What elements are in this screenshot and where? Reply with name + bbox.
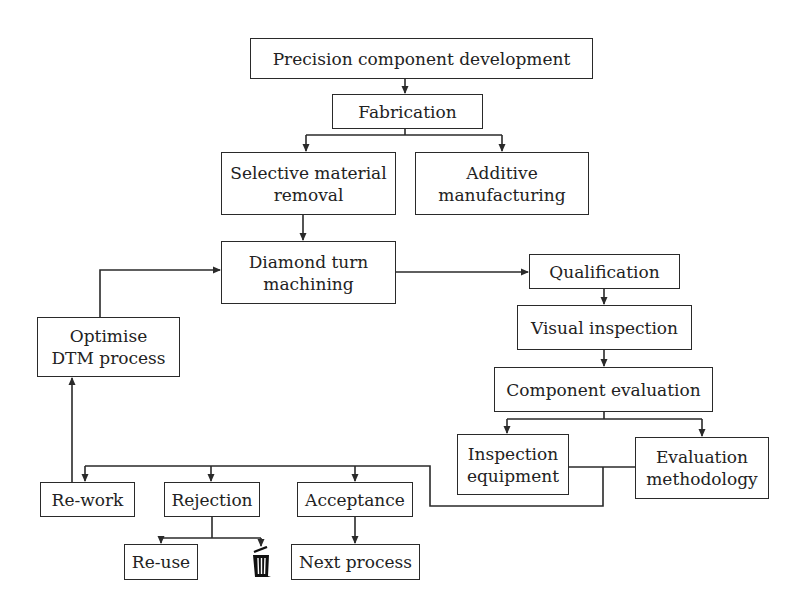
node-rejection: Rejection bbox=[164, 482, 260, 517]
node-fabrication: Fabrication bbox=[332, 94, 483, 129]
flowchart: Precision component development Fabricat… bbox=[0, 0, 799, 607]
node-qualification: Qualification bbox=[529, 254, 680, 289]
node-component-evaluation: Component evaluation bbox=[494, 367, 713, 412]
node-visual-inspection: Visual inspection bbox=[517, 305, 692, 350]
node-evaluation-methodology: Evaluation methodology bbox=[635, 437, 769, 499]
node-diamond-turn-machining: Diamond turn machining bbox=[221, 241, 396, 304]
node-inspection-equipment: Inspection equipment bbox=[457, 434, 569, 495]
node-acceptance: Acceptance bbox=[297, 482, 413, 517]
node-precision-component-development: Precision component development bbox=[250, 38, 593, 79]
node-selective-material-removal: Selective material removal bbox=[221, 152, 396, 215]
node-additive-manufacturing: Additive manufacturing bbox=[415, 152, 589, 215]
node-next-process: Next process bbox=[291, 544, 420, 580]
node-optimise-dtm-process: Optimise DTM process bbox=[37, 317, 180, 377]
node-re-work: Re-work bbox=[40, 482, 135, 517]
node-re-use: Re-use bbox=[124, 544, 198, 580]
trash-icon bbox=[250, 546, 274, 580]
